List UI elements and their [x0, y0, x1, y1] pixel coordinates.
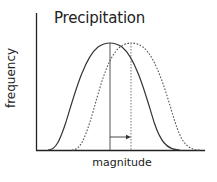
precipitation-diagram: Precipitation magnitude frequency — [0, 0, 217, 182]
plot-area — [0, 0, 217, 182]
x-axis-label: magnitude — [0, 156, 217, 169]
y-axis-label: frequency — [4, 48, 18, 108]
dotted-distribution-curve — [72, 43, 200, 150]
solid-distribution-curve — [48, 43, 180, 150]
chart-title: Precipitation — [54, 9, 145, 27]
shift-arrow-icon — [110, 135, 131, 139]
